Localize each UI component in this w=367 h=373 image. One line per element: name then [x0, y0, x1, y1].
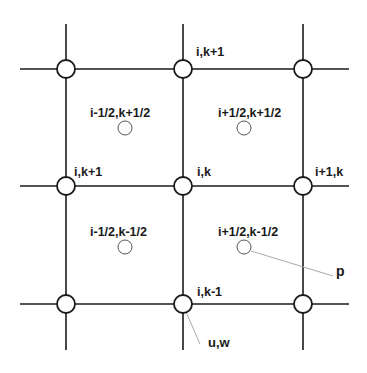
- label-cell-top-left: i-1/2,k+1/2: [90, 106, 150, 120]
- label-cell-bottom-left: i-1/2,k-1/2: [90, 225, 147, 239]
- label-cell-top-right: i+1/2,k+1/2: [218, 106, 281, 120]
- label-bottom-center: i,k-1: [197, 285, 222, 299]
- cell-center-circle: [237, 240, 251, 254]
- node-circle: [57, 295, 75, 313]
- cell-center-circle: [118, 121, 132, 135]
- node-circle: [174, 60, 192, 78]
- label-center: i,k: [197, 165, 211, 179]
- velocity-leader-line: [186, 312, 200, 344]
- label-cell-bottom-right: i+1/2,k-1/2: [218, 225, 278, 239]
- cell-center-circle: [237, 121, 251, 135]
- node-circle: [294, 60, 312, 78]
- node-circle: [174, 295, 192, 313]
- label-left-mid: i,k+1: [74, 165, 102, 179]
- label-top-center: i,k+1: [196, 45, 224, 59]
- cell-center-circle: [118, 240, 132, 254]
- staggered-grid-diagram: i,k+1 i,k+1 i,k i+1,k i,k-1 i-1/2,k+1/2 …: [0, 0, 367, 373]
- node-circle: [294, 295, 312, 313]
- label-velocity: u,w: [208, 335, 231, 350]
- node-circle: [294, 177, 312, 195]
- node-circle: [57, 60, 75, 78]
- pressure-leader-line: [251, 251, 333, 276]
- label-pressure: p: [336, 263, 345, 279]
- node-circle: [174, 177, 192, 195]
- node-circle: [57, 177, 75, 195]
- label-right-mid: i+1,k: [315, 165, 343, 179]
